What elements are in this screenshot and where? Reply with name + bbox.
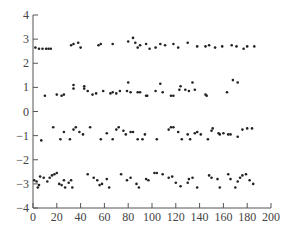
data-point — [67, 181, 70, 184]
data-point — [47, 48, 50, 51]
data-point — [108, 186, 111, 189]
data-point — [95, 92, 98, 95]
data-point — [63, 131, 66, 134]
data-point — [102, 90, 105, 93]
data-point — [229, 133, 232, 136]
data-point — [91, 93, 94, 96]
data-point — [178, 89, 181, 92]
data-point — [92, 177, 95, 180]
data-point — [200, 133, 203, 136]
x-tick-label: 100 — [143, 210, 161, 224]
data-point — [72, 128, 75, 131]
data-point — [109, 92, 112, 95]
y-tick-label: 0 — [23, 105, 29, 119]
data-point — [156, 172, 159, 175]
data-point — [70, 179, 73, 182]
data-point — [111, 43, 114, 46]
data-point — [35, 180, 38, 183]
data-point — [126, 90, 129, 93]
data-point — [245, 173, 248, 176]
data-point — [214, 46, 217, 49]
data-point — [119, 90, 122, 93]
data-point — [56, 93, 59, 96]
data-point — [236, 180, 239, 183]
data-point — [83, 85, 86, 88]
y-tick-label: 2 — [23, 56, 29, 70]
data-point — [159, 43, 162, 46]
data-point — [188, 178, 191, 181]
data-point — [141, 138, 144, 141]
data-point — [50, 48, 53, 51]
data-point — [69, 138, 72, 141]
data-point — [98, 184, 101, 187]
data-point — [164, 44, 167, 47]
data-point — [100, 138, 103, 141]
data-point — [154, 90, 157, 93]
data-point — [205, 95, 208, 98]
data-point — [125, 133, 128, 136]
data-point — [235, 45, 238, 48]
data-point — [170, 95, 173, 98]
x-tick-label: 40 — [75, 210, 87, 224]
data-point — [41, 48, 44, 51]
axes — [33, 15, 271, 208]
data-point — [33, 179, 36, 182]
data-point — [129, 91, 132, 94]
data-point — [101, 183, 104, 186]
data-point — [44, 95, 47, 98]
data-point — [196, 131, 199, 134]
data-point — [156, 138, 159, 141]
data-point — [37, 186, 40, 189]
data-point — [241, 128, 244, 131]
data-point — [196, 45, 199, 48]
x-tick-label: 140 — [191, 210, 209, 224]
data-point — [219, 186, 222, 189]
x-tick-label: 120 — [167, 210, 185, 224]
y-tick-label: 1 — [23, 80, 29, 94]
data-point — [82, 133, 85, 136]
data-point — [179, 185, 182, 188]
data-point — [139, 91, 142, 94]
data-point — [129, 131, 132, 134]
data-point — [132, 37, 135, 40]
data-point — [172, 126, 175, 129]
scatter-chart: −4−3−2−101234 02040608010012014016018020… — [0, 0, 294, 231]
data-point — [159, 83, 162, 86]
x-tick-label: 200 — [262, 210, 280, 224]
data-point — [122, 130, 125, 133]
data-point — [60, 184, 63, 187]
data-point — [208, 44, 211, 47]
data-point — [72, 87, 75, 90]
data-point — [46, 180, 49, 183]
data-point — [115, 128, 118, 131]
data-point — [181, 138, 184, 141]
data-point — [251, 127, 254, 130]
data-point — [253, 45, 256, 48]
data-point — [77, 41, 80, 44]
data-point — [126, 179, 129, 182]
data-point — [144, 133, 147, 136]
data-point — [221, 45, 224, 48]
data-point — [136, 91, 139, 94]
data-point — [232, 79, 235, 82]
y-tick-label: −1 — [16, 129, 29, 143]
data-point — [147, 179, 150, 182]
data-point — [161, 91, 164, 94]
data-point — [211, 127, 214, 130]
data-point — [191, 177, 194, 180]
data-point — [194, 89, 197, 92]
data-point — [63, 93, 66, 96]
data-point — [252, 183, 255, 186]
data-point — [79, 46, 82, 49]
data-point — [222, 132, 225, 135]
data-point — [227, 173, 230, 176]
data-points — [33, 37, 256, 189]
data-point — [226, 91, 229, 94]
data-point — [170, 126, 173, 129]
data-point — [127, 81, 130, 84]
data-point — [58, 183, 61, 186]
data-point — [59, 138, 62, 141]
x-tick-label: 0 — [30, 210, 36, 224]
data-point — [196, 186, 199, 189]
data-point — [145, 43, 148, 46]
